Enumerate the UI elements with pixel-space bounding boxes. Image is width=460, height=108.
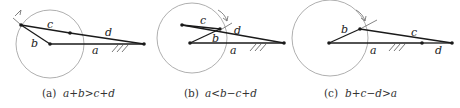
joint	[420, 41, 424, 45]
joint	[68, 31, 72, 35]
caption-prefix: (b)	[184, 87, 199, 99]
joint	[327, 41, 331, 45]
ground-hatch	[250, 44, 266, 51]
joint	[188, 41, 192, 45]
ground-hatch	[112, 45, 128, 52]
label-a: a	[230, 44, 237, 57]
arrow-icon	[356, 10, 377, 28]
label-b: b	[341, 23, 348, 36]
ground-hatch	[389, 44, 405, 51]
panel-c: b c a d (c) b+c−d>a	[292, 0, 454, 99]
label-c: c	[47, 18, 53, 31]
caption-prefix: (c)	[324, 87, 338, 99]
joint	[19, 23, 23, 27]
joint	[358, 27, 362, 31]
link-c	[360, 29, 452, 43]
link-c	[21, 25, 70, 33]
label-a: a	[370, 44, 377, 57]
label-b: b	[212, 32, 219, 45]
caption-formula: b+c−d>a	[345, 87, 397, 99]
linkage-diagram: c b d a (a) a+b>c+d c b d a (b) a<b−c+d	[0, 0, 460, 108]
label-c: c	[411, 26, 417, 39]
label-b: b	[31, 37, 38, 50]
trajectory-circle	[292, 0, 368, 76]
caption-prefix: (a)	[42, 87, 56, 99]
label-a: a	[92, 44, 99, 57]
joint	[180, 23, 184, 27]
joint	[450, 41, 454, 45]
caption-formula: a<b−c+d	[205, 87, 257, 99]
joint	[282, 41, 286, 45]
joint	[48, 42, 52, 46]
arrow-icon	[13, 10, 21, 24]
joint	[142, 42, 146, 46]
label-c: c	[200, 14, 206, 27]
caption-formula: a+b>c+d	[63, 87, 115, 99]
panel-b: c b d a (b) a<b−c+d	[157, 3, 286, 99]
joint	[218, 27, 222, 31]
panel-a: c b d a (a) a+b>c+d	[13, 10, 146, 99]
label-d: d	[234, 24, 241, 37]
label-d: d	[435, 44, 442, 57]
label-d: d	[105, 26, 112, 39]
